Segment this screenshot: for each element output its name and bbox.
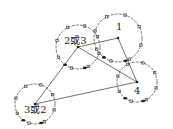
node-label: 3或2 — [24, 104, 47, 115]
center-point — [77, 46, 80, 49]
nodes-layer: 2或3143或2 — [15, 14, 158, 124]
foot-marker-icon — [123, 60, 127, 63]
foot-marker-icon — [102, 56, 106, 59]
foot-marker-icon — [63, 63, 67, 66]
foot-marker-icon — [83, 67, 87, 70]
foot-marker-icon — [123, 97, 127, 100]
node-n4: 4 — [117, 62, 158, 103]
network-diagram: 2或3143或2 — [0, 0, 173, 129]
center-point — [117, 37, 120, 40]
node-n32: 3或2 — [15, 84, 56, 125]
node-label: 4 — [134, 85, 140, 96]
foot-marker-icon — [21, 119, 25, 122]
node-n1: 1 — [94, 14, 142, 62]
edge-n23-n32 — [35, 47, 78, 104]
edges-layer — [35, 38, 137, 104]
edge-n32-n4 — [35, 82, 137, 104]
node-label: 2或3 — [64, 35, 87, 46]
foot-marker-icon — [141, 100, 145, 103]
foot-marker-icon — [39, 122, 43, 125]
node-label: 1 — [116, 21, 122, 32]
center-point — [136, 81, 139, 84]
